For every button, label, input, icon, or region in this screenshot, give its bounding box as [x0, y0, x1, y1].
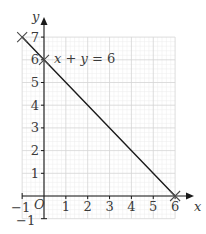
y-tick-label: 5 [31, 75, 39, 90]
y-axis-label: y [31, 9, 40, 24]
y-tick-label: 4 [31, 98, 39, 113]
y-axis-arrow-icon [41, 17, 48, 25]
y-tick-label: 1 [31, 166, 39, 181]
y-negative-label: −1 [16, 213, 35, 228]
y-tick-label: 2 [31, 143, 39, 158]
line-chart: 1234561234567−1−1 x + y = 6 x y O [0, 0, 206, 234]
x-tick-label: 6 [171, 199, 179, 214]
x-axis-label: x [194, 199, 202, 214]
x-axis-arrow-icon [186, 193, 194, 200]
y-tick-label: 7 [31, 30, 39, 45]
equation-label: x + y = 6 [54, 51, 115, 66]
y-tick-label: 3 [31, 120, 39, 135]
x-tick-label: 3 [105, 199, 113, 214]
origin-label: O [34, 197, 45, 212]
x-tick-label: 5 [149, 199, 157, 214]
y-tick-label: 6 [31, 52, 39, 67]
x-tick-label: 2 [84, 199, 92, 214]
x-tick-label: 1 [62, 199, 70, 214]
x-tick-label: 4 [127, 199, 135, 214]
